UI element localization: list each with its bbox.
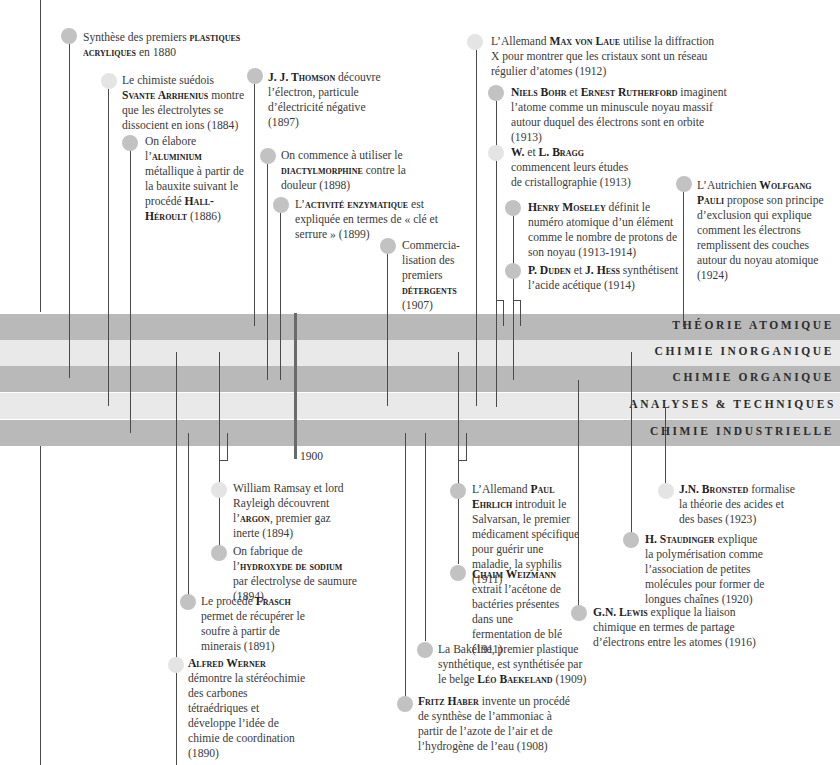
event-connector (458, 352, 459, 564)
event-dot (450, 483, 466, 499)
event-dot (211, 482, 227, 498)
event-connector (387, 254, 388, 406)
event-connector (425, 433, 426, 641)
event-connector-elbow (458, 460, 466, 461)
event-dot (101, 73, 117, 89)
event-connector (254, 84, 255, 326)
event-detergents: Commercia-lisation des premiers détergen… (402, 238, 462, 313)
event-connector (69, 44, 70, 378)
band-label: CHIMIE INDUSTRIELLE (650, 425, 834, 437)
timeline-axis-line (40, 0, 41, 312)
event-bohr-rutherford: Niels Bohr et Ernest Rutherford imaginen… (511, 85, 736, 145)
event-dot (380, 238, 396, 254)
event-connector (219, 352, 220, 547)
event-dot (260, 148, 276, 164)
band-analyses-techniques: ANALYSES & TECHNIQUES (0, 393, 840, 419)
event-bragg: W. et L. Bragg commencent leurs études d… (511, 145, 641, 190)
event-diactylmorphine: On commence à utiliser le diactylmorphin… (281, 148, 421, 193)
band-chimie-organique: CHIMIE ORGANIQUE (0, 366, 840, 392)
timeline-axis-line (40, 446, 41, 765)
event-dot (211, 545, 227, 561)
event-werner: Alfred Werner démontre la stéréochimie d… (188, 656, 308, 761)
event-connector (227, 433, 228, 461)
event-thomson: J. J. Thomson découvre l’électron, parti… (268, 70, 388, 130)
event-connector (188, 433, 189, 598)
year-1900-label: 1900 (300, 450, 323, 462)
event-connector (503, 300, 504, 326)
event-aluminium: On élabore l’aluminium métallique à part… (145, 134, 250, 224)
event-connector (665, 407, 666, 484)
event-bronsted: J.N. Bronsted formalise la théorie des a… (679, 482, 799, 527)
event-connector (520, 300, 521, 326)
year-1900-marker (294, 313, 297, 459)
event-connector (631, 352, 632, 533)
event-connector-elbow (219, 460, 227, 461)
event-dot (488, 145, 504, 161)
event-staudinger: H. Staudinger explique la polymérisation… (645, 532, 765, 607)
band-chimie-inorganique: CHIMIE INORGANIQUE (0, 340, 840, 366)
event-connector (280, 213, 281, 380)
event-connector (578, 380, 579, 607)
event-dot (505, 263, 521, 279)
event-dot (417, 642, 433, 658)
event-dot (467, 34, 483, 50)
event-bakelite: La Bakélite, premier plastique synthétiq… (438, 642, 593, 687)
event-argon: William Ramsay et lord Rayleigh découvre… (233, 481, 358, 541)
event-haber: Fritz Haber invente un procédé de synthè… (418, 694, 578, 754)
event-dot (623, 532, 639, 548)
event-dot (273, 197, 289, 213)
event-moseley: Henry Moseley définit le numéro atomique… (528, 200, 678, 260)
event-dot (505, 200, 521, 216)
event-dot (450, 565, 466, 581)
event-von-laue: L’Allemand Max von Laue utilise la diffr… (491, 34, 721, 79)
event-connector (683, 192, 684, 327)
event-dot (397, 696, 413, 712)
band-theorie-atomique: THÉORIE ATOMIQUE (0, 314, 840, 340)
event-arrhenius: Le chimiste suédois Svante Arrhenius mon… (122, 73, 247, 133)
event-connector (466, 433, 467, 461)
event-pauli: L’Autrichien Wolfgang Pauli propose son … (697, 178, 837, 283)
event-plastiques-acryliques: Synthèse des premiers plastiques acryliq… (83, 30, 253, 60)
event-connector (405, 433, 406, 703)
event-activite-enzymatique: L’activité enzymatique est expliquée en … (295, 197, 440, 242)
event-dot (180, 594, 196, 610)
band-label: CHIMIE ORGANIQUE (673, 371, 834, 383)
event-dot (247, 68, 263, 84)
event-dot (488, 85, 504, 101)
band-chimie-industrielle: CHIMIE INDUSTRIELLE (0, 420, 840, 446)
band-label: ANALYSES & TECHNIQUES (629, 398, 836, 410)
event-connector (267, 164, 268, 380)
event-connector (130, 151, 131, 433)
event-dot (61, 28, 77, 44)
event-connector (513, 216, 514, 380)
event-duden-hess: P. Duden et J. Hess synthétisent l’acide… (528, 263, 688, 293)
event-frasch: Le procédé Frasch permet de récupérer le… (201, 594, 321, 654)
event-dot (571, 605, 587, 621)
band-label: THÉORIE ATOMIQUE (672, 319, 834, 331)
event-connector (476, 50, 477, 406)
event-dot (676, 176, 692, 192)
band-label: CHIMIE INORGANIQUE (655, 345, 834, 357)
event-lewis: G.N. Lewis explique la liaison chimique … (593, 605, 763, 650)
event-dot (658, 483, 674, 499)
event-dot (168, 657, 184, 673)
event-dot (122, 135, 138, 151)
event-connector (176, 352, 177, 765)
event-connector (108, 89, 109, 406)
